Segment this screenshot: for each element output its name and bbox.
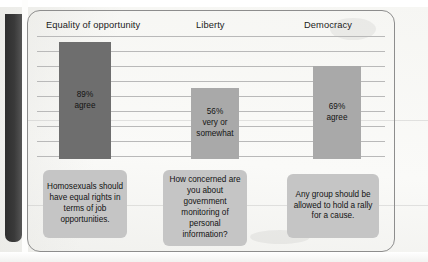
column-header-democracy: Democracy	[304, 20, 352, 30]
column-header-liberty: Liberty	[196, 20, 225, 30]
column-header-equality: Equality of opportunity	[46, 20, 140, 30]
caption-democracy: Any group should be allowed to hold a ra…	[287, 174, 379, 238]
bar-liberty: 56%very orsomewhat	[191, 88, 239, 159]
page-bottom-edge	[0, 252, 428, 262]
book-spine-shadow	[5, 14, 22, 242]
gridline	[37, 36, 385, 37]
page-top-edge	[0, 0, 428, 7]
scanned-page: Equality of opportunity Liberty Democrac…	[0, 0, 428, 262]
bar-label-democracy: 69%agree	[325, 102, 350, 124]
caption-liberty: How concerned are you about government m…	[163, 170, 247, 246]
bar-label-liberty: 56%very orsomewhat	[194, 107, 235, 139]
bar-democracy: 69%agree	[313, 66, 361, 159]
bar-label-equality: 89%agree	[73, 90, 98, 112]
caption-equality: Homosexuals should have equal rights in …	[43, 170, 127, 238]
bar-equality: 89%agree	[59, 42, 111, 159]
